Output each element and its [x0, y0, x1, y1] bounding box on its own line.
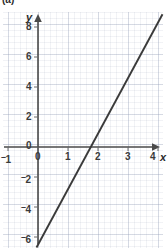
x-tick-label-3: 3	[125, 152, 131, 162]
y-axis-arrow	[34, 14, 42, 22]
x-axis-label: x	[160, 152, 166, 163]
y-tick-label--2: –2	[21, 172, 31, 185]
y-tick-label-6: 6	[26, 52, 32, 62]
x-tick-label--1: –1	[1, 152, 11, 165]
x-tick-label-4: 4	[150, 152, 156, 162]
y-tick-label--6: –6	[21, 232, 31, 245]
x-tick-label-1: 1	[65, 152, 71, 162]
data-line-series-0	[37, 14, 163, 247]
y-axis-label: y	[26, 12, 32, 23]
x-axis-arrow	[152, 143, 160, 151]
graph-figure: (a)	[0, 0, 168, 248]
y-tick-label-2: 2	[26, 112, 32, 122]
y-axis	[34, 14, 42, 244]
x-tick-label-2: 2	[95, 152, 101, 162]
y-tick-label--4: –4	[21, 202, 31, 215]
y-tick-label-0: 0	[26, 141, 32, 151]
x-tick-label-0: 0	[35, 152, 41, 162]
y-tick-label-8: 8	[26, 22, 32, 32]
y-tick-label-4: 4	[26, 82, 32, 92]
